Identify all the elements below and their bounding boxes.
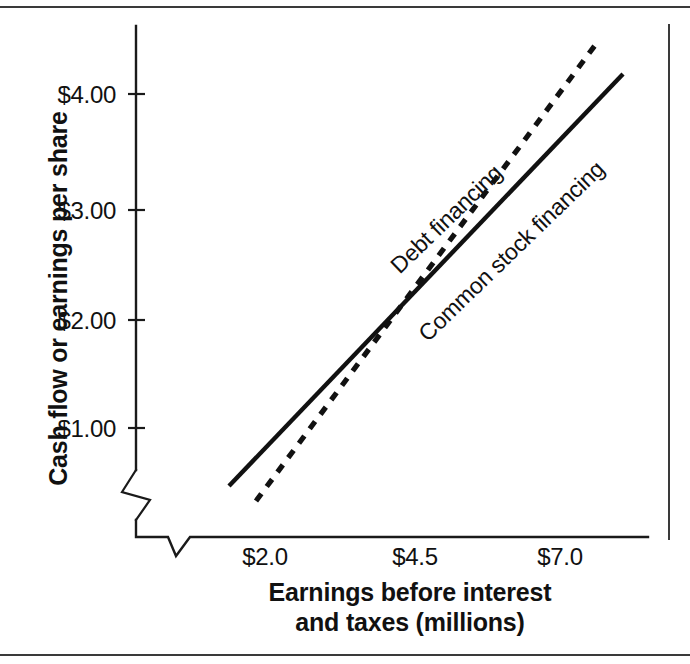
y-tick-label-3: $3.00	[6, 197, 116, 225]
x-tick-label-1: $2.0	[220, 543, 310, 571]
y-tick-label-1: $1.00	[6, 415, 116, 443]
y-tick-label-2: $2.00	[6, 307, 116, 335]
series-line-common-stock-financing	[229, 74, 623, 486]
x-tick-label-3: $7.0	[515, 543, 605, 571]
x-axis-title-line1: Earnings before interest	[269, 578, 552, 606]
figure-page: Cash flow or earnings per share $4.00 $3…	[0, 0, 690, 664]
x-axis-title-line2: and taxes (millions)	[180, 608, 640, 638]
y-axis-title: Cash flow or earnings per share	[44, 89, 73, 509]
y-axis-break-zigzag	[122, 470, 150, 520]
x-tick-label-2: $4.5	[370, 543, 460, 571]
y-axis	[122, 26, 150, 520]
x-axis-title: Earnings before interest and taxes (mill…	[180, 578, 640, 637]
y-tick-label-4: $4.00	[6, 81, 116, 109]
series-line-debt-financing	[256, 44, 596, 501]
